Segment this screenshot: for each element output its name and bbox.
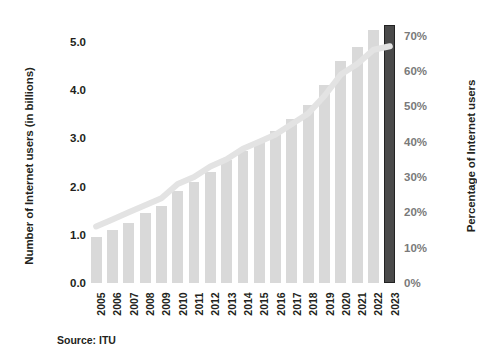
y-axis-left-tick: 2.0 — [56, 182, 86, 194]
bar-slot — [186, 18, 202, 283]
x-axis-label-slot: 2012 — [202, 286, 218, 332]
bar-highlighted — [384, 25, 395, 283]
bar-slot — [121, 18, 137, 283]
bar — [238, 151, 249, 284]
bar — [91, 237, 102, 283]
x-axis-label-slot: 2022 — [365, 286, 381, 332]
y-axis-right-tick: 60% — [404, 66, 438, 78]
x-axis-label-slot: 2007 — [121, 286, 137, 332]
y-axis-right-tick: 0% — [404, 278, 438, 290]
x-axis-labels: 2005200620072008200920102011201220132014… — [88, 286, 398, 332]
y-axis-right-tick: 70% — [404, 31, 438, 43]
bar-series — [88, 18, 398, 283]
x-axis-label-slot: 2018 — [300, 286, 316, 332]
bar — [270, 131, 281, 283]
y-axis-left-tick: 0.0 — [56, 278, 86, 290]
bar — [189, 182, 200, 283]
x-axis-label-slot: 2006 — [104, 286, 120, 332]
y-axis-right-tick: 30% — [404, 172, 438, 184]
bar — [123, 223, 134, 283]
bar — [352, 47, 363, 283]
bar — [205, 172, 216, 283]
x-axis-label-slot: 2005 — [88, 286, 104, 332]
plot-area — [88, 18, 398, 283]
x-axis-label-slot: 2016 — [267, 286, 283, 332]
bar — [303, 105, 314, 283]
x-axis-label-slot: 2014 — [235, 286, 251, 332]
bar — [221, 160, 232, 283]
y-axis-left-tick: 4.0 — [56, 85, 86, 97]
bar-slot — [267, 18, 283, 283]
y-axis-left-tick: 1.0 — [56, 230, 86, 242]
bar-slot — [202, 18, 218, 283]
x-axis-label-slot: 2009 — [153, 286, 169, 332]
x-axis-label-slot: 2023 — [382, 286, 398, 332]
source-note: Source: ITU — [57, 334, 116, 346]
bar — [172, 191, 183, 283]
bar — [140, 213, 151, 283]
bar — [319, 85, 330, 283]
bar-slot — [104, 18, 120, 283]
y-axis-left-ticks: 0.01.02.03.04.05.0 — [52, 0, 86, 362]
x-axis-label: 2023 — [390, 292, 401, 315]
bar-slot — [333, 18, 349, 283]
bar-slot — [349, 18, 365, 283]
y-axis-left-title: Number of Internet users (in billions) — [23, 51, 35, 281]
bar-slot — [219, 18, 235, 283]
bar-slot — [170, 18, 186, 283]
x-axis-label-slot: 2008 — [137, 286, 153, 332]
y-axis-right-title: Percentage of Internet users — [465, 41, 477, 271]
y-axis-left-tick: 3.0 — [56, 133, 86, 145]
y-axis-right-tick: 10% — [404, 243, 438, 255]
bar — [286, 119, 297, 283]
y-axis-right-ticks: 0%10%20%30%40%50%60%70% — [404, 0, 440, 362]
bar — [107, 230, 118, 283]
y-axis-right-tick: 50% — [404, 101, 438, 113]
bar-slot — [365, 18, 381, 283]
y-axis-right-tick: 40% — [404, 137, 438, 149]
y-axis-right-tick: 20% — [404, 207, 438, 219]
bar-slot — [88, 18, 104, 283]
bar-slot — [251, 18, 267, 283]
bar — [335, 61, 346, 283]
bar-slot — [382, 18, 398, 283]
x-axis-label-slot: 2019 — [316, 286, 332, 332]
x-axis-label-slot: 2013 — [219, 286, 235, 332]
x-axis-label-slot: 2021 — [349, 286, 365, 332]
bar-slot — [316, 18, 332, 283]
y-axis-left-tick: 5.0 — [56, 37, 86, 49]
bar-slot — [153, 18, 169, 283]
bar — [156, 206, 167, 283]
bar-slot — [235, 18, 251, 283]
x-axis-label-slot: 2015 — [251, 286, 267, 332]
bar-slot — [300, 18, 316, 283]
x-axis-label-slot: 2010 — [170, 286, 186, 332]
bar — [368, 30, 379, 283]
x-axis-label-slot: 2017 — [284, 286, 300, 332]
bar-slot — [284, 18, 300, 283]
bar — [254, 141, 265, 283]
x-axis-label-slot: 2011 — [186, 286, 202, 332]
x-axis-label-slot: 2020 — [333, 286, 349, 332]
bar-slot — [137, 18, 153, 283]
